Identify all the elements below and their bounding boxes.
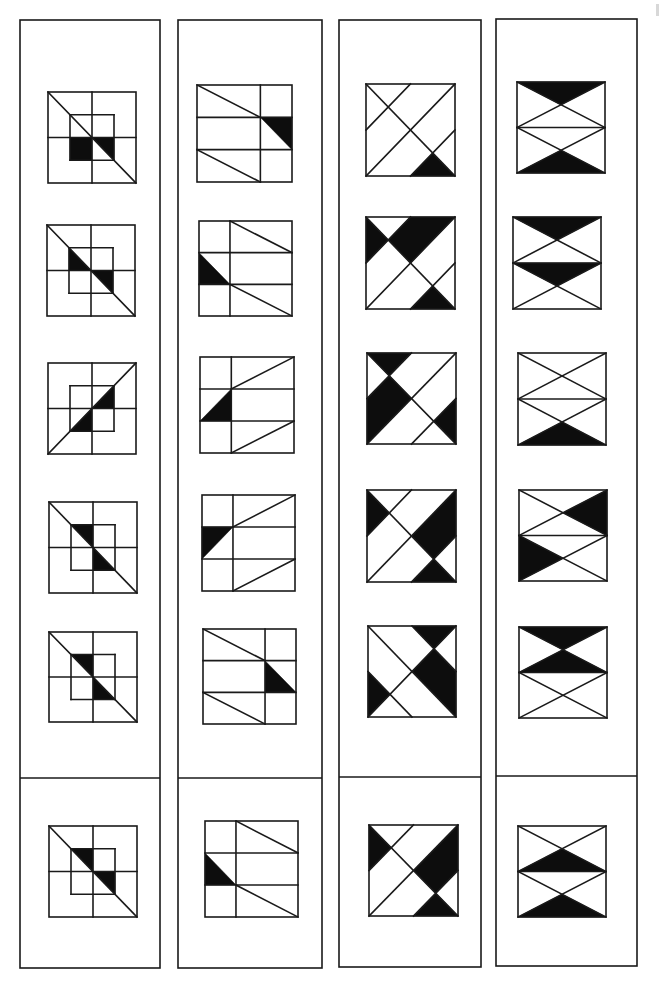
filled-triangle	[200, 389, 231, 421]
sequence-figure-3	[367, 353, 456, 444]
figure-line	[197, 85, 260, 117]
filled-triangle	[513, 217, 601, 240]
filled-triangle	[367, 376, 412, 444]
figure-border	[200, 357, 294, 453]
answer-figure[interactable]	[369, 825, 458, 916]
figure-line	[233, 495, 295, 527]
filled-triangle	[518, 894, 606, 917]
puzzle-column-2	[178, 20, 322, 968]
filled-triangle	[412, 559, 457, 582]
sequence-figure-1	[517, 82, 605, 173]
sequence-figure-2	[513, 217, 601, 309]
filled-triangle	[366, 217, 388, 263]
filled-triangle	[202, 527, 233, 559]
sequence-figure-4	[202, 495, 295, 591]
sequence-figure-4	[519, 490, 607, 581]
sequence-figure-1	[197, 85, 292, 182]
filled-triangle	[434, 399, 456, 445]
figure-line	[203, 629, 265, 661]
filled-triangle	[367, 490, 389, 536]
figure-line	[197, 150, 260, 182]
figure-line	[230, 284, 292, 316]
figure-line	[233, 559, 295, 591]
filled-triangle	[412, 490, 457, 559]
filled-triangle	[517, 82, 605, 105]
figure-line	[231, 357, 294, 389]
filled-triangle	[563, 490, 607, 536]
filled-triangle	[518, 849, 606, 872]
filled-triangle	[411, 286, 456, 309]
filled-triangle	[205, 853, 236, 885]
puzzle-column-3	[339, 20, 481, 967]
filled-triangle	[519, 536, 563, 582]
scan-edge-mark	[656, 4, 659, 16]
sequence-figure-3	[48, 363, 136, 454]
sequence-figure-1	[366, 84, 455, 176]
filled-triangle	[199, 253, 230, 285]
answer-figure[interactable]	[518, 826, 606, 917]
sequence-figure-5	[368, 626, 456, 717]
filled-triangle	[519, 650, 607, 673]
filled-triangle	[519, 627, 607, 650]
filled-triangle	[260, 117, 292, 149]
filled-triangle	[265, 661, 296, 693]
figure-line	[236, 821, 298, 853]
answer-figure[interactable]	[205, 821, 298, 917]
puzzle-column-4	[496, 19, 637, 966]
sequence-figure-2	[199, 221, 292, 316]
figure-line	[231, 421, 294, 453]
filled-triangle	[518, 422, 606, 445]
filled-triangle	[412, 649, 456, 717]
sequence-figure-5	[519, 627, 607, 718]
sequence-figure-2	[47, 225, 135, 316]
sequence-figure-4	[49, 502, 137, 593]
filled-triangle	[367, 353, 412, 376]
sequence-figure-5	[49, 632, 137, 722]
filled-triangle	[412, 626, 456, 649]
sequence-figure-1	[48, 92, 136, 183]
figure-line	[236, 885, 298, 917]
figure-line	[203, 692, 265, 724]
sequence-figure-3	[200, 357, 294, 453]
filled-triangle	[369, 825, 391, 871]
figure-border	[203, 629, 296, 724]
filled-triangle	[388, 217, 455, 263]
column-frame	[178, 20, 322, 968]
filled-triangle	[368, 672, 390, 718]
sequence-figure-3	[518, 353, 606, 445]
puzzle-column-1	[20, 20, 160, 968]
sequence-figure-5	[203, 629, 296, 724]
puzzle-diagram	[0, 0, 664, 999]
sequence-figure-4	[367, 490, 456, 582]
figure-line	[230, 221, 292, 253]
filled-triangle	[414, 893, 459, 916]
sequence-figure-2	[366, 217, 455, 309]
filled-triangle	[513, 263, 601, 286]
filled-triangle	[70, 138, 92, 161]
filled-triangle	[517, 150, 605, 173]
filled-triangle	[411, 153, 456, 176]
answer-figure[interactable]	[49, 826, 137, 917]
filled-triangle	[414, 825, 459, 893]
